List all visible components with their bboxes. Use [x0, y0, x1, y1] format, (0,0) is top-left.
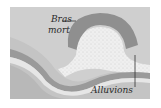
label-bras: Bras — [51, 14, 72, 24]
label-alluvions: Alluvions — [91, 85, 133, 95]
label-mort: mort — [48, 25, 70, 35]
